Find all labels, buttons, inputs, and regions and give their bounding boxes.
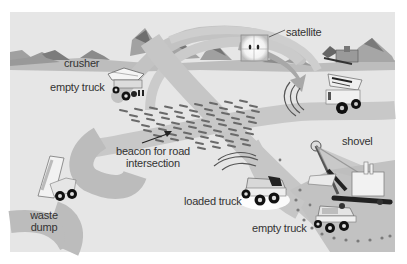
label-empty-truck-bottom: empty truck xyxy=(252,222,307,234)
label-beacon: beacon for road intersection xyxy=(114,145,192,169)
label-loaded-truck: loaded truck xyxy=(184,195,242,207)
label-beacon-line1: beacon for road xyxy=(114,145,192,157)
satellite-icon xyxy=(241,35,268,61)
figure-caption xyxy=(12,256,312,264)
label-crusher: crusher xyxy=(64,57,99,69)
label-waste-dump-line2: dump xyxy=(22,221,66,233)
label-waste-dump: waste dump xyxy=(22,209,66,233)
label-beacon-line2: intersection xyxy=(114,157,192,169)
label-shovel: shovel xyxy=(342,135,373,147)
mine-haulage-diagram: crusher empty truck satellite beacon for… xyxy=(0,0,407,264)
label-waste-dump-line1: waste xyxy=(22,209,66,221)
label-empty-truck-top: empty truck xyxy=(50,81,105,93)
label-satellite: satellite xyxy=(286,26,322,38)
